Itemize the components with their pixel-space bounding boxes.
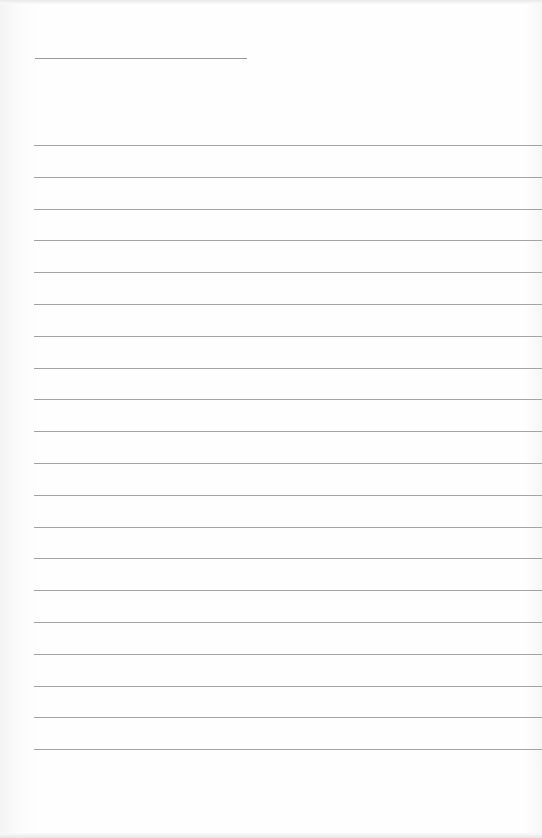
ruled-line-12 bbox=[34, 495, 542, 527]
ruled-line-1 bbox=[34, 145, 542, 177]
ruled-line-15 bbox=[34, 590, 542, 622]
ruled-line-18 bbox=[34, 686, 542, 718]
ruled-line-6 bbox=[34, 304, 542, 336]
title-line bbox=[35, 58, 247, 59]
ruled-line-10 bbox=[34, 431, 542, 463]
ruled-line-11 bbox=[34, 463, 542, 495]
ruled-line-4 bbox=[34, 240, 542, 272]
ruled-line-7 bbox=[34, 336, 542, 368]
ruled-lines bbox=[34, 145, 542, 781]
bottom-edge-shadow bbox=[0, 833, 542, 838]
ruled-line-2 bbox=[34, 177, 542, 209]
ruled-line-16 bbox=[34, 622, 542, 654]
ruled-line-13 bbox=[34, 527, 542, 559]
ruled-line-17 bbox=[34, 654, 542, 686]
ruled-line-20 bbox=[34, 749, 542, 781]
ruled-line-5 bbox=[34, 272, 542, 304]
top-edge-shadow bbox=[0, 0, 542, 4]
lined-paper-sheet bbox=[0, 0, 542, 838]
ruled-line-9 bbox=[34, 399, 542, 431]
ruled-line-8 bbox=[34, 368, 542, 400]
ruled-line-3 bbox=[34, 209, 542, 241]
ruled-line-14 bbox=[34, 558, 542, 590]
ruled-line-19 bbox=[34, 717, 542, 749]
